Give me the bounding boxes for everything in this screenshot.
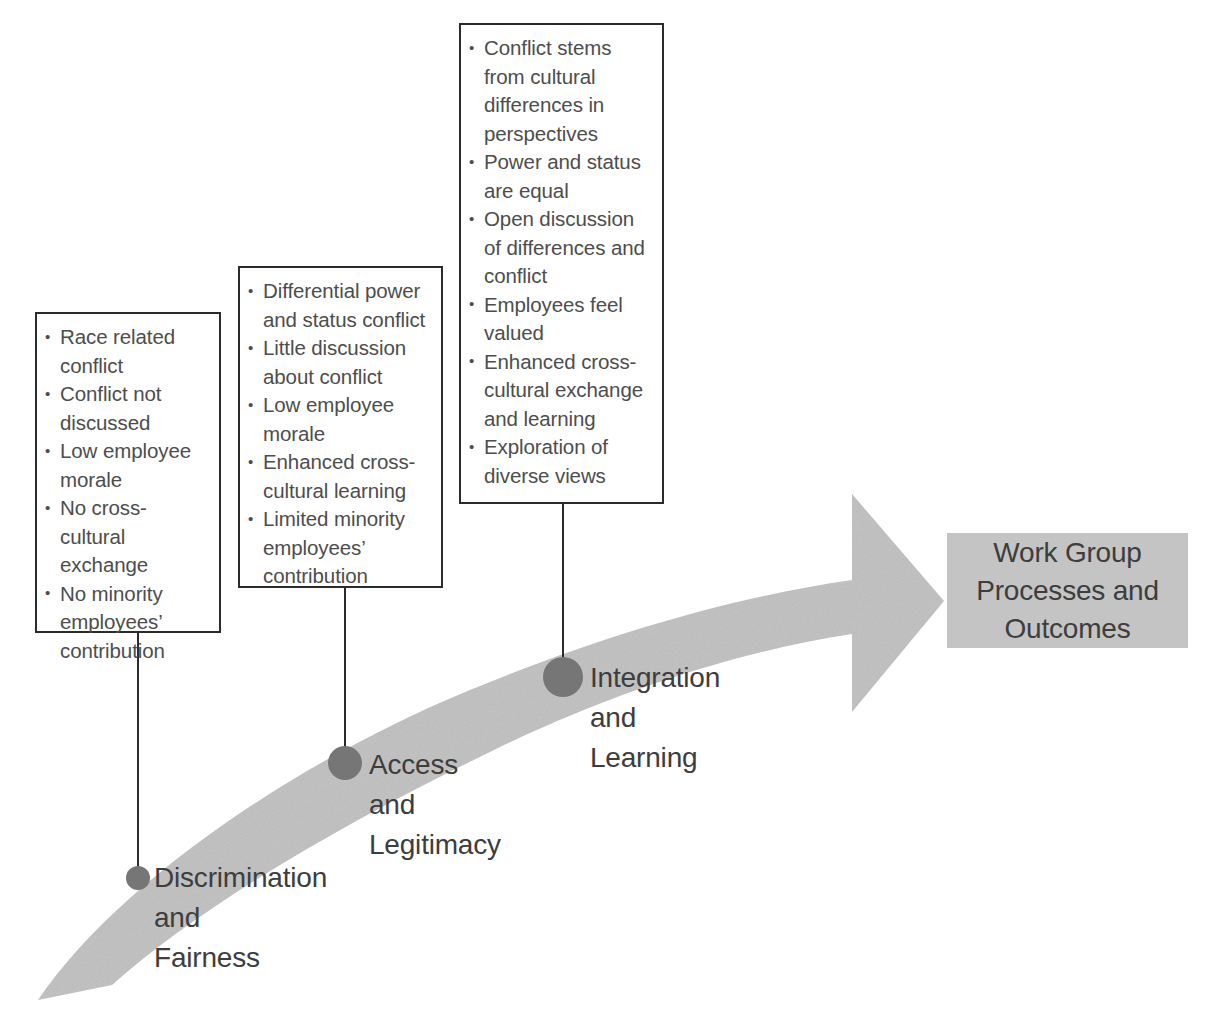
stage-label-access-and-legitimacy: Access and Legitimacy (369, 745, 501, 865)
callout-item: Little discussion about conflict (246, 334, 434, 391)
stage-label-discrimination-and-fairness: Discrimination and Fairness (154, 858, 327, 978)
callout-box-integration-and-learning: Conflict stems from cultural differences… (459, 23, 664, 504)
stage-dot-access-and-legitimacy[interactable] (328, 746, 362, 780)
callout-item: Enhanced cross-cultural learning (246, 448, 434, 505)
callout-item: Low employee morale (43, 437, 212, 494)
callout-list: Conflict stems from cultural differences… (467, 34, 655, 490)
diagram-canvas: Race related conflict Conflict not discu… (0, 0, 1208, 1011)
callout-item: Race related conflict (43, 323, 212, 380)
callout-item: Enhanced cross-cultural exchange and lea… (467, 348, 655, 434)
stage-dot-discrimination-and-fairness[interactable] (126, 866, 150, 890)
callout-item: Open discussion of differences and confl… (467, 205, 655, 291)
connector-line-access-and-legitimacy (344, 588, 346, 752)
callout-box-discrimination-and-fairness: Race related conflict Conflict not discu… (35, 312, 221, 633)
callout-item: Conflict not discussed (43, 380, 212, 437)
callout-item: Differential power and status conflict (246, 277, 434, 334)
callout-item: Employees feel valued (467, 291, 655, 348)
callout-item: Power and status are equal (467, 148, 655, 205)
callout-box-access-and-legitimacy: Differential power and status conflict L… (238, 266, 443, 588)
callout-list: Race related conflict Conflict not discu… (43, 323, 212, 665)
callout-list: Differential power and status conflict L… (246, 277, 434, 591)
connector-line-integration-and-learning (562, 504, 564, 664)
callout-item: No minority employees’ contribution (43, 580, 212, 666)
callout-item: Exploration of diverse views (467, 433, 655, 490)
callout-item: No cross-cultural exchange (43, 494, 212, 580)
stage-label-integration-and-learning: Integration and Learning (590, 658, 720, 778)
stage-dot-integration-and-learning[interactable] (543, 657, 583, 697)
connector-line-discrimination-and-fairness (137, 633, 139, 879)
callout-item: Conflict stems from cultural differences… (467, 34, 655, 148)
callout-item: Limited minority employees’ contribution (246, 505, 434, 591)
callout-item: Low employee morale (246, 391, 434, 448)
work-group-outcome-box: Work Group Processes and Outcomes (947, 533, 1188, 648)
